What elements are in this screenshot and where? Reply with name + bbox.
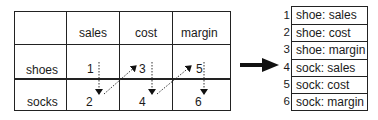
list-index: 1 — [282, 8, 290, 22]
dotted-arrow-diagonal-icon — [157, 66, 191, 94]
list-item: shoe: sales — [292, 7, 367, 24]
flattened-list: shoe: sales shoe: cost shoe: margin sock… — [291, 6, 368, 111]
list-item: shoe: cost — [292, 24, 367, 41]
transform-arrow-right-icon — [240, 58, 279, 72]
list-index: 6 — [282, 94, 290, 108]
list-item: sock: sales — [292, 59, 367, 76]
list-index: 4 — [282, 60, 290, 74]
dotted-arrow-diagonal-icon — [104, 66, 136, 94]
list-index: 3 — [282, 42, 290, 56]
list-item: sock: margin — [292, 93, 367, 110]
list-item: shoe: margin — [292, 41, 367, 58]
list-index: 2 — [282, 25, 290, 39]
list-item: sock: cost — [292, 76, 367, 93]
list-index: 5 — [282, 77, 290, 91]
